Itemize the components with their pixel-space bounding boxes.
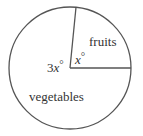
vegetables-angle-label: 3x° [47,58,64,75]
pie-chart-diagram: fruits x° 3x° vegetables [0,0,143,136]
fruits-angle-label: x° [74,50,85,67]
vegetables-label: vegetables [29,89,84,104]
fruits-label: fruits [89,34,116,49]
